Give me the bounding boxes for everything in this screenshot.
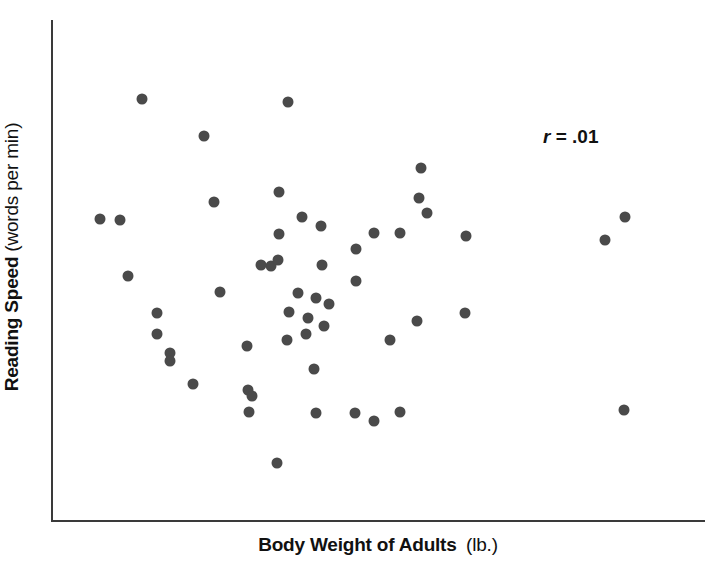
data-point bbox=[317, 260, 328, 271]
data-point bbox=[394, 407, 405, 418]
data-point bbox=[619, 405, 630, 416]
y-axis-label: Reading Speed (words per min) bbox=[0, 0, 29, 537]
data-point bbox=[209, 197, 220, 208]
data-point bbox=[255, 260, 266, 271]
data-point bbox=[385, 335, 396, 346]
data-point bbox=[460, 308, 471, 319]
data-point bbox=[351, 276, 362, 287]
data-point bbox=[293, 288, 304, 299]
data-point bbox=[137, 94, 148, 105]
data-point bbox=[369, 228, 380, 239]
data-point bbox=[274, 229, 285, 240]
data-point bbox=[315, 221, 326, 232]
y-axis-label-unit: (words per min) bbox=[1, 123, 23, 252]
data-point bbox=[422, 208, 433, 219]
data-point bbox=[461, 231, 472, 242]
plot-area bbox=[53, 20, 705, 520]
x-axis-label-main: Body Weight of Adults bbox=[258, 534, 456, 555]
data-point bbox=[368, 416, 379, 427]
x-axis-label: Body Weight of Adults (lb.) bbox=[51, 534, 705, 556]
data-point bbox=[122, 271, 133, 282]
data-point bbox=[310, 293, 321, 304]
data-point bbox=[412, 316, 423, 327]
data-point bbox=[318, 321, 329, 332]
data-point bbox=[272, 255, 283, 266]
scatter-plot-figure: Reading Speed (words per min) Body Weigh… bbox=[0, 0, 724, 566]
data-point bbox=[297, 212, 308, 223]
data-point bbox=[246, 391, 257, 402]
data-point bbox=[349, 408, 360, 419]
data-point bbox=[414, 193, 425, 204]
data-point bbox=[282, 335, 293, 346]
data-point bbox=[164, 356, 175, 367]
data-point bbox=[282, 97, 293, 108]
data-point bbox=[187, 379, 198, 390]
data-point bbox=[272, 458, 283, 469]
data-point bbox=[394, 228, 405, 239]
data-point bbox=[115, 215, 126, 226]
data-point bbox=[351, 244, 362, 255]
data-point bbox=[302, 313, 313, 324]
data-point bbox=[310, 408, 321, 419]
data-point bbox=[244, 407, 255, 418]
data-point bbox=[199, 131, 210, 142]
x-axis-label-unit: (lb.) bbox=[466, 534, 498, 555]
data-point bbox=[323, 299, 334, 310]
data-point bbox=[599, 235, 610, 246]
data-point bbox=[619, 212, 630, 223]
data-point bbox=[415, 163, 426, 174]
data-point bbox=[214, 287, 225, 298]
data-point bbox=[284, 307, 295, 318]
data-point bbox=[308, 364, 319, 375]
data-point bbox=[151, 329, 162, 340]
correlation-value: = .01 bbox=[556, 126, 599, 147]
data-point bbox=[94, 214, 105, 225]
correlation-symbol: r bbox=[543, 126, 550, 147]
y-axis-label-main: Reading Speed bbox=[1, 257, 23, 392]
data-point bbox=[274, 187, 285, 198]
correlation-annotation: r = .01 bbox=[543, 126, 598, 148]
data-point bbox=[242, 341, 253, 352]
data-point bbox=[300, 329, 311, 340]
data-point bbox=[152, 308, 163, 319]
x-axis-line bbox=[51, 520, 705, 522]
